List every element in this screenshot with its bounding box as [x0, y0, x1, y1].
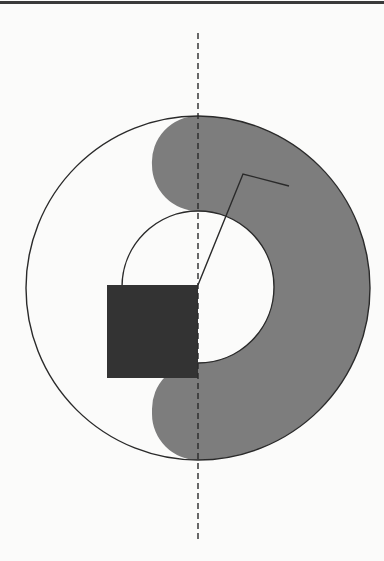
diagram-canvas: [0, 0, 384, 561]
dark-square: [107, 285, 198, 378]
